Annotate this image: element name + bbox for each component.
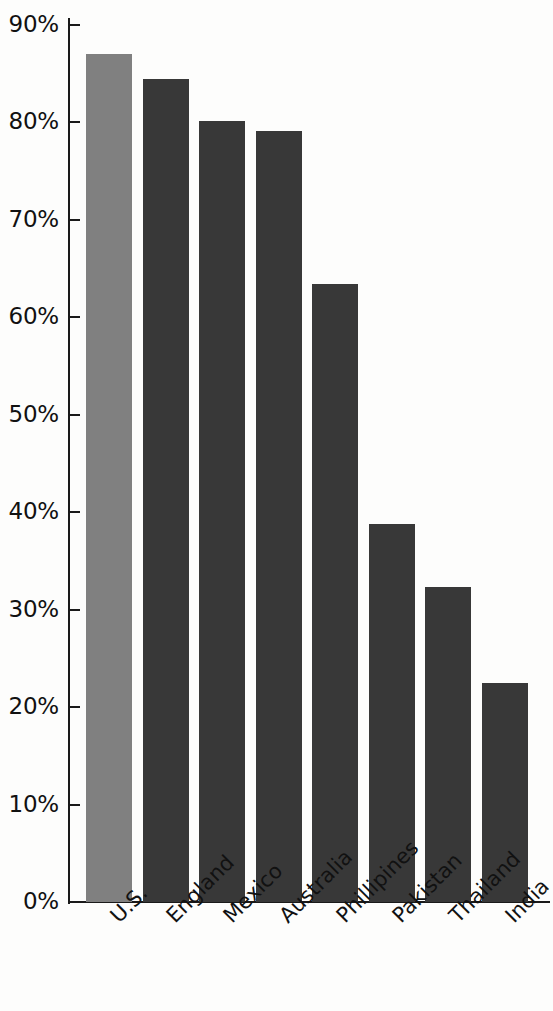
bar-chart: 0%10%20%30%40%50%60%70%80%90% U.S.Englan… [0,0,553,1011]
x-axis-tick-labels: U.S.EnglandMexicoAustraliaPhillipinesPak… [0,902,553,1011]
bar-australia[interactable] [256,131,302,902]
bar-england[interactable] [143,79,189,902]
bar-series [0,0,553,902]
bar-u-s[interactable] [86,54,132,902]
bar-mexico[interactable] [199,121,245,903]
bar-phillipines[interactable] [312,284,358,902]
